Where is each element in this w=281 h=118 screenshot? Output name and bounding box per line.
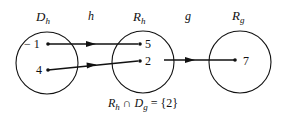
domain-h-label: Dh (35, 9, 50, 26)
arrowhead-icon (86, 41, 96, 47)
function-g-label: g (185, 9, 191, 23)
point-rh-1 (138, 42, 142, 46)
point-dh-2 (46, 68, 50, 72)
range-h-label: Rh (132, 9, 146, 26)
arrowhead-icon (185, 57, 195, 63)
function-h-label: h (88, 9, 94, 23)
point-dh-1 (46, 42, 50, 46)
element-7: 7 (243, 54, 249, 68)
range-h-circle (112, 31, 174, 93)
range-g-circle (209, 31, 271, 93)
element-5: 5 (145, 37, 151, 51)
point-rg-1 (233, 58, 237, 62)
caption-intersection: Rh ∩ Dg = {2} (107, 96, 178, 112)
function-composition-diagram: Dh h Rh g Rg − 1 4 5 2 7 Rh ∩ Dg = {2} (0, 0, 281, 118)
element-4: 4 (36, 63, 42, 77)
element-minus-1: − 1 (24, 37, 40, 51)
element-2: 2 (145, 54, 151, 68)
range-g-label: Rg (231, 8, 245, 25)
point-rh-2 (138, 59, 142, 63)
